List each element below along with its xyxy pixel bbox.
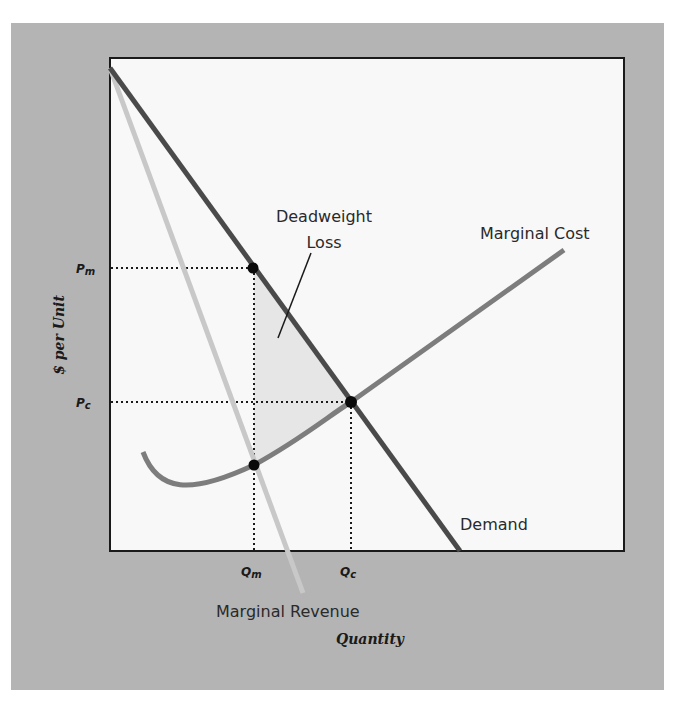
qc-tick-label: Qc [340, 565, 356, 580]
y-axis-title: $ per Unit [51, 295, 67, 375]
dwl-label-line1: Deadweight [276, 207, 372, 226]
plot-area [110, 58, 624, 551]
monopoly-chart: Deadweight Loss Marginal Cost Demand Mar… [0, 0, 676, 704]
mr-mc-intersection-point [249, 460, 260, 471]
pc-tick-label: Pc [76, 396, 91, 411]
pm-tick-label: Pm [76, 262, 95, 277]
qm-tick-label: Qm [241, 565, 262, 580]
marginal-revenue-label: Marginal Revenue [216, 602, 360, 621]
competitive-equilibrium-point [345, 396, 357, 408]
demand-label: Demand [460, 515, 528, 534]
marginal-cost-label: Marginal Cost [480, 224, 590, 243]
x-axis-title: Quantity [336, 631, 405, 647]
dwl-label-line2: Loss [306, 233, 341, 252]
monopoly-price-point [248, 263, 259, 274]
